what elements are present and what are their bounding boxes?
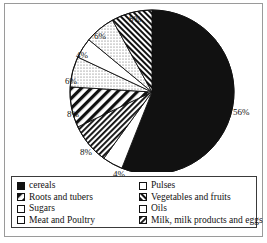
pie-percent-label: 8% — [80, 148, 92, 157]
legend-item[interactable]: cereals — [17, 180, 137, 192]
legend-swatch-icon — [17, 182, 25, 190]
legend-swatch-icon — [17, 216, 25, 224]
legend-label: Milk, milk products and eggs — [151, 215, 263, 226]
pie-percent-label: 6% — [94, 32, 106, 41]
legend-label: Sugars — [29, 203, 55, 214]
legend-item[interactable]: Milk, milk products and eggs — [139, 215, 263, 227]
legend-swatch-icon — [139, 205, 147, 213]
legend-swatch-icon — [17, 193, 25, 201]
legend-item[interactable]: Sugars — [17, 203, 137, 215]
pie-chart-area: 56%4%8%8%6%4%6%8% — [5, 4, 262, 172]
legend-item[interactable]: Meat and Poultry — [17, 215, 137, 227]
pie-percent-label: 56% — [233, 108, 250, 117]
pie-chart-figure: 56%4%8%8%6%4%6%8% cerealsPulsesRoots and… — [0, 0, 267, 243]
legend-label: Vegetables and fruits — [151, 192, 231, 203]
legend-label: Meat and Poultry — [29, 215, 95, 226]
pie-percent-label: 4% — [76, 51, 88, 60]
pie-percent-label: 8% — [129, 15, 141, 24]
chart-legend: cerealsPulsesRoots and tubersVegetables … — [11, 176, 257, 228]
legend-grid: cerealsPulsesRoots and tubersVegetables … — [12, 177, 256, 227]
legend-item[interactable]: Roots and tubers — [17, 192, 137, 204]
legend-item[interactable]: Oils — [139, 203, 263, 215]
legend-swatch-icon — [139, 216, 147, 224]
pie-percent-label: 6% — [65, 77, 77, 86]
legend-label: Pulses — [151, 180, 175, 191]
pie-chart-svg — [5, 4, 262, 172]
legend-swatch-icon — [139, 182, 147, 190]
legend-label: cereals — [29, 180, 55, 191]
legend-swatch-icon — [17, 205, 25, 213]
pie-percent-label: 8% — [67, 110, 79, 119]
legend-item[interactable]: Vegetables and fruits — [139, 192, 263, 204]
legend-item[interactable]: Pulses — [139, 180, 263, 192]
legend-label: Oils — [151, 203, 167, 214]
legend-label: Roots and tubers — [29, 192, 93, 203]
legend-swatch-icon — [139, 193, 147, 201]
